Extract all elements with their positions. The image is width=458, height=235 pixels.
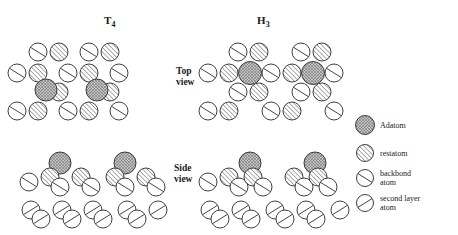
atom-second-layer [307, 210, 325, 228]
atom-backbond [51, 178, 69, 196]
atom-backbond [254, 178, 272, 196]
atom-second-layer [128, 210, 146, 228]
atom-backbond [29, 43, 47, 61]
legend-item-line: second layer [380, 194, 420, 203]
legend-item-line: backbond [380, 169, 411, 178]
column-title-t4: T4 [104, 14, 116, 29]
atom-second-layer [331, 201, 349, 219]
atom-backbond [59, 102, 77, 120]
atom-backbond [229, 83, 247, 101]
atom-backbond [292, 83, 310, 101]
row-label-line: Side [174, 163, 192, 174]
atom-backbond [110, 102, 128, 120]
column-title-subscript: 4 [112, 20, 116, 29]
atom-backbond [319, 178, 337, 196]
atom-backbond [357, 170, 374, 187]
legend-item-restatom: restatom [380, 149, 408, 158]
atom-backbond [82, 178, 100, 196]
atom-backbond [325, 64, 343, 82]
legend-item-backbond: backbondatom [380, 169, 411, 188]
atom-restatom [250, 43, 268, 61]
cluster-h3-side [199, 152, 349, 228]
atom-backbond [199, 102, 217, 120]
legend-swatches [356, 116, 375, 212]
row-label-top-view: Topview [176, 66, 194, 88]
atom-adatom [86, 79, 108, 101]
atom-backbond [59, 64, 77, 82]
atom-backbond [8, 64, 26, 82]
atom-restatom [220, 64, 238, 82]
atom-restatom [220, 102, 238, 120]
row-label-line: view [174, 174, 192, 185]
column-title-h3: H3 [257, 14, 270, 29]
atom-restatom [283, 64, 301, 82]
atom-second-layer [242, 210, 260, 228]
atom-backbond [325, 102, 343, 120]
legend-item-line: Adatom [380, 121, 406, 130]
atom-backbond [20, 173, 38, 191]
atom-backbond [116, 178, 134, 196]
atom-backbond [262, 64, 280, 82]
atom-second-layer [211, 210, 229, 228]
atom-backbond [292, 43, 310, 61]
atom-second-layer [276, 210, 294, 228]
atom-adatom [302, 62, 325, 85]
atom-backbond [110, 64, 128, 82]
atom-restatom [80, 102, 98, 120]
atom-restatom [357, 145, 374, 162]
atom-backbond [147, 178, 165, 196]
atom-restatom [29, 102, 47, 120]
cluster-h3-top [199, 43, 343, 120]
atom-adatom [356, 116, 375, 135]
atom-second-layer [357, 195, 374, 212]
atom-backbond [262, 102, 280, 120]
row-label-line: Top [176, 66, 194, 77]
column-title-subscript: 3 [266, 20, 270, 29]
atom-restatom [283, 102, 301, 120]
row-label-line: view [176, 77, 194, 88]
cluster-t4-side [20, 152, 167, 228]
atom-restatom [50, 43, 68, 61]
legend-item-line: restatom [380, 149, 408, 158]
atom-second-layer [32, 210, 50, 228]
atomic-structure-figure: T4 H3 Topview Sideview Adatomrestatombac… [0, 0, 458, 235]
column-title-main: T [104, 14, 112, 26]
atom-restatom [101, 43, 119, 61]
legend-item-line: atom [380, 178, 411, 187]
atom-backbond [199, 64, 217, 82]
atom-backbond [80, 43, 98, 61]
legend-item-line: atom [380, 203, 420, 212]
atom-second-layer [149, 201, 167, 219]
atom-adatom [239, 62, 262, 85]
atom-restatom [313, 43, 331, 61]
column-title-main: H [257, 14, 266, 26]
atom-backbond [199, 173, 217, 191]
atom-adatom [35, 79, 57, 101]
legend-item-adatom: Adatom [380, 121, 406, 130]
atom-backbond [229, 43, 247, 61]
row-label-side-view: Sideview [174, 163, 192, 185]
atom-restatom [250, 83, 268, 101]
legend-item-second-layer: second layeratom [380, 194, 420, 213]
atom-second-layer [94, 210, 112, 228]
atom-restatom [313, 83, 331, 101]
atom-backbond [8, 102, 26, 120]
atom-second-layer [63, 210, 81, 228]
cluster-t4-top [8, 43, 128, 120]
